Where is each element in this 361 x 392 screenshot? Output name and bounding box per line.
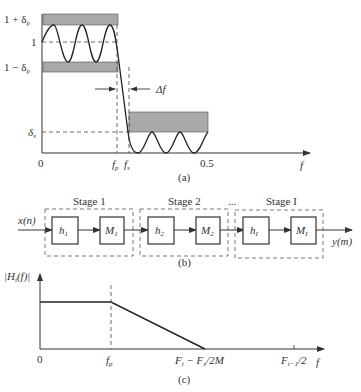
fp-label-a: fp	[112, 158, 119, 172]
input-label: x(n)	[17, 214, 36, 227]
stopband-ripple-curve	[128, 132, 208, 153]
fs-label-a: fs	[124, 158, 130, 172]
transition-band-curve	[118, 55, 128, 132]
delta-f-label: Δf	[155, 83, 167, 95]
x-zero-label-c: 0	[37, 353, 43, 365]
stage-2-label: Stage 2	[168, 195, 201, 207]
filter-spec-chart: Δf 1 + δp 1 1 − δp δs 0 fp fs 0.5 f (a)	[4, 13, 310, 184]
fi-label: Fi − Fs/2M	[174, 354, 225, 368]
upper-passband-label: 1 + δp	[4, 13, 30, 27]
caption-c: (c)	[178, 373, 191, 386]
stopband-label: δs	[28, 126, 36, 140]
stopband-band	[129, 112, 208, 132]
output-label: y(m)	[331, 235, 352, 248]
half-label: 0.5	[200, 157, 214, 169]
unity-label: 1	[31, 36, 37, 48]
ellipsis-label: ...	[228, 195, 237, 207]
y-axis-label-c: |Hi(f)|	[4, 270, 30, 284]
fp-label-c: fp	[106, 354, 113, 368]
f-axis-label-c: f	[316, 356, 321, 368]
x-zero-label-a: 0	[38, 157, 44, 169]
fim1-label: Fi−1/2	[280, 354, 307, 368]
stage-response-chart: |Hi(f)| 0 fp Fi − Fs/2M Fi−1/2 f (c)	[4, 270, 324, 386]
lower-passband-label: 1 − δp	[4, 61, 30, 75]
stage-I-label: Stage I	[266, 195, 297, 207]
f-axis-label-a: f	[300, 159, 305, 171]
caption-a: (a)	[178, 171, 191, 184]
passband-lower-band	[43, 62, 118, 72]
stage-1-label: Stage 1	[73, 195, 106, 207]
passband-ripple-curve	[42, 25, 118, 62]
multistage-decimation-figure: Δf 1 + δp 1 1 − δp δs 0 fp fs 0.5 f (a) …	[0, 0, 361, 392]
response-curve	[40, 302, 205, 349]
block-diagram: x(n) Stage 1 h1 M1 Stage 2 h2 M2 ... Sta…	[17, 195, 352, 269]
caption-b: (b)	[178, 256, 191, 269]
passband-upper-band	[43, 14, 118, 25]
